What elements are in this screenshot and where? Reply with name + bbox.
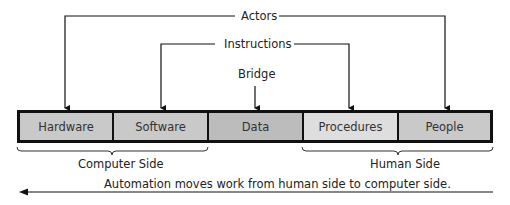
actors-line-right (275, 16, 445, 108)
actors-label: Actors (239, 9, 279, 23)
component-people: People (398, 110, 493, 143)
bridge-label: Bridge (236, 67, 278, 81)
automation-arrow-head (19, 189, 28, 196)
instructions-line-left (161, 44, 215, 108)
instructions-label: Instructions (222, 37, 294, 51)
computer-side-label: Computer Side (76, 157, 166, 171)
human-side-label: Human Side (368, 157, 442, 171)
automation-note: Automation moves work from human side to… (102, 177, 453, 191)
component-data: Data (208, 110, 303, 143)
human-side-brace (302, 147, 493, 155)
component-hardware: Hardware (17, 110, 113, 143)
component-procedures: Procedures (303, 110, 398, 143)
actors-line-left (65, 16, 235, 108)
computer-side-brace (17, 147, 208, 155)
component-software: Software (113, 110, 208, 143)
connector-lines (0, 0, 510, 205)
instructions-line-right (293, 44, 349, 108)
